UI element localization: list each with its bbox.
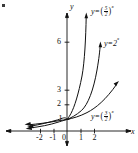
x-tick-label-0: 0: [62, 134, 66, 142]
y-tick-label-1: 1: [59, 115, 63, 123]
exponential-functions-figure: y x 6 3 2 1 -2 -1 0 1 2 y=(52)x y=2x y=(…: [0, 0, 138, 153]
fraction-denominator: 2: [104, 116, 108, 122]
curve-label-equals: =: [95, 7, 101, 16]
paren-open-icon: (: [101, 5, 104, 16]
paren-open-icon: (: [101, 110, 104, 121]
fraction-denominator: 2: [104, 11, 108, 17]
x-tick-label-2: 2: [93, 134, 97, 142]
x-axis-label: x: [131, 128, 135, 136]
fraction-three-halves: 32: [104, 111, 108, 123]
paren-close-icon: ): [109, 110, 112, 121]
curve-label-five-halves: y=(52)x: [91, 5, 114, 18]
x-tick-label-neg2: -2: [36, 134, 43, 142]
curve-label-exponent: x: [112, 109, 114, 114]
y-tick-label-2: 2: [57, 100, 61, 108]
y-tick-label-6: 6: [57, 38, 61, 46]
x-axis: [6, 129, 131, 132]
curve-five-halves: [27, 13, 88, 129]
x-tick-label-neg1: -1: [50, 134, 57, 142]
fraction-five-halves: 52: [104, 6, 108, 18]
curve-label-three-halves: y=(32)x: [91, 110, 114, 123]
curve-label-two: y=2x: [104, 38, 119, 48]
plot-canvas: [0, 0, 138, 153]
y-axis: [66, 13, 69, 146]
x-tick-label-1: 1: [79, 134, 83, 142]
curve-label-exponent: x: [112, 4, 114, 9]
paren-close-icon: ): [109, 5, 112, 16]
y-tick-label-3: 3: [57, 86, 61, 94]
curve-label-exponent: x: [117, 36, 119, 41]
curve-label-equals: =: [95, 112, 101, 121]
y-axis-label: y: [70, 3, 74, 11]
